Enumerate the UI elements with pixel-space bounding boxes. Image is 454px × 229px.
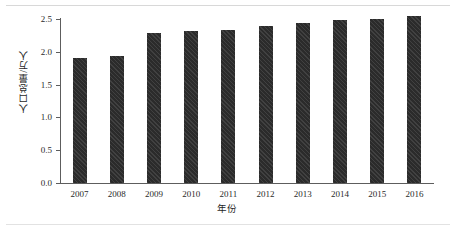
x-axis-tick-label: 2012 [257,190,275,199]
x-axis-tick-label: 2010 [182,190,200,199]
y-axis-tick-label: 1.5 [41,80,52,89]
x-axis-tick-label: 2011 [220,190,238,199]
bar-slot: 2010 [173,19,210,183]
y-axis-tick-label: 2.0 [41,47,52,56]
bar [407,16,421,183]
bar-slot: 2011 [210,19,247,183]
bar [147,33,161,183]
x-axis-tick-label: 2009 [145,190,163,199]
bar-slot: 2007 [61,19,98,183]
y-axis-title: 人口总量/万人 [20,50,34,113]
bar-slot: 2012 [247,19,284,183]
y-axis-tick-label: 2.5 [41,15,52,24]
y-axis-tick-label: 0.0 [41,179,52,188]
bar [110,56,124,183]
plot-area: 0.00.51.01.52.02.5 200720082009201020112… [61,19,433,183]
bar-slot: 2013 [284,19,321,183]
y-axis-tick-label: 0.5 [41,146,52,155]
bar [184,31,198,183]
bar-slot: 2014 [321,19,358,183]
bar-slot: 2015 [359,19,396,183]
bar [370,19,384,183]
x-axis-tick-label: 2007 [71,190,89,199]
x-axis-line [60,183,434,184]
x-axis-tick-label: 2013 [294,190,312,199]
x-axis-tick-label: 2016 [405,190,423,199]
x-axis-tick-label: 2014 [331,190,349,199]
bar-slot: 2016 [396,19,433,183]
bar-slot: 2009 [135,19,172,183]
y-axis-tick-label: 1.0 [41,113,52,122]
figure-bottom-rule [6,224,450,225]
bar [221,30,235,184]
bar-chart-figure: 人口总量/万人 0.00.51.01.52.02.5 2007200820092… [0,0,454,229]
x-axis-title: 年份 [0,205,454,215]
bar [259,26,273,183]
figure-top-rule [6,5,450,6]
bar [333,20,347,183]
x-axis-tick-label: 2015 [368,190,386,199]
bar-slot: 2008 [98,19,135,183]
bar [73,58,87,183]
x-axis-tick-label: 2008 [108,190,126,199]
y-axis-tick-mark [56,183,61,184]
bar [296,23,310,183]
